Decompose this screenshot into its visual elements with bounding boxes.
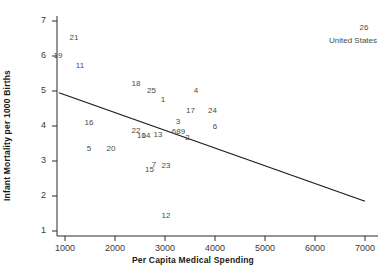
data-point-label: 18 <box>132 79 141 88</box>
data-point-label: 12 <box>162 210 171 219</box>
x-tick-label: 6000 <box>295 243 335 253</box>
x-tick-label: 5000 <box>245 243 285 253</box>
point-annotation: United States <box>329 36 377 45</box>
tick-marks <box>52 21 365 241</box>
data-point-label: 20 <box>107 144 116 153</box>
data-point-label: 11 <box>76 61 84 70</box>
x-tick-label: 7000 <box>345 243 385 253</box>
data-point-label: 16 <box>85 117 94 126</box>
data-point-label: 14 <box>142 131 151 140</box>
y-tick-label: 6 <box>20 50 46 60</box>
data-point-label: 17 <box>186 105 195 114</box>
axis-spines <box>57 16 378 236</box>
y-tick-label: 7 <box>20 15 46 25</box>
data-point-label: 23 <box>162 161 171 170</box>
x-tick-label: 2000 <box>95 243 135 253</box>
data-point-label: 6 <box>213 122 217 131</box>
data-point-label: 25 <box>147 85 156 94</box>
x-tick-label: 4000 <box>195 243 235 253</box>
x-tick-label: 1000 <box>45 243 85 253</box>
data-point-label: 1 <box>161 94 165 103</box>
data-point-label: 15 <box>145 165 154 174</box>
data-point-label: 4 <box>194 85 198 94</box>
y-tick-label: 2 <box>20 190 46 200</box>
data-point-label: 24 <box>208 105 217 114</box>
data-point-label: 13 <box>154 130 163 139</box>
y-tick-label: 4 <box>20 120 46 130</box>
data-point-label: 26 <box>360 22 369 31</box>
y-tick-label: 1 <box>20 225 46 235</box>
data-point-label: 3 <box>176 117 180 126</box>
scatter-plot-figure: Infant Mortality per 1000 Births Per Cap… <box>0 0 386 271</box>
data-point-label: 19 <box>54 51 63 60</box>
data-point-label: 21 <box>70 32 79 41</box>
data-point-label: 5 <box>87 144 91 153</box>
y-tick-label: 5 <box>20 85 46 95</box>
data-point-label: 2 <box>185 133 189 142</box>
x-tick-label: 3000 <box>145 243 185 253</box>
y-tick-label: 3 <box>20 155 46 165</box>
